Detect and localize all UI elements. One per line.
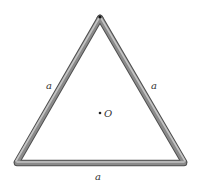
rod-frame bbox=[16, 18, 185, 163]
center-label: O bbox=[104, 108, 112, 119]
rod-left-body bbox=[17, 18, 100, 162]
side-label-bottom: a bbox=[95, 171, 101, 182]
rod-left-highlight bbox=[16, 18, 99, 161]
rod-right-body bbox=[100, 18, 184, 162]
center-dot-icon bbox=[99, 112, 102, 115]
rod-right-highlight bbox=[101, 18, 185, 161]
side-label-right: a bbox=[151, 80, 157, 91]
side-label-left: a bbox=[46, 80, 52, 91]
pivot-point-icon bbox=[98, 15, 101, 18]
triangle-diagram: O a a a bbox=[0, 0, 199, 186]
